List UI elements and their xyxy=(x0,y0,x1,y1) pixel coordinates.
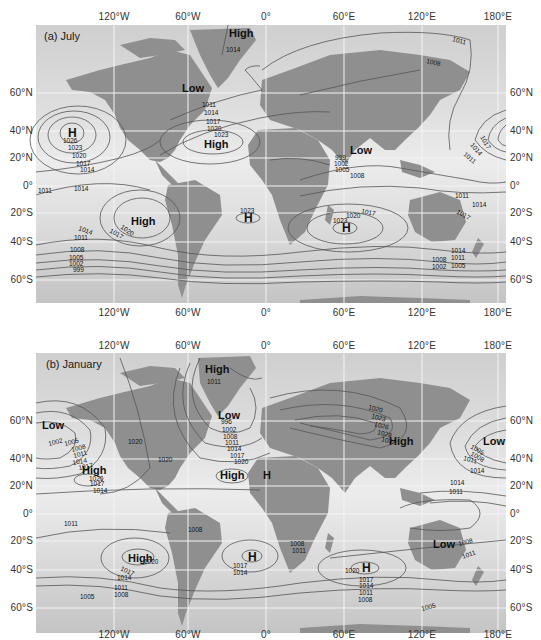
lon-label: 60°E xyxy=(333,340,356,351)
pressure-center-high: H xyxy=(362,561,371,575)
isobar-label: 1023 xyxy=(68,144,83,151)
isobar-label: 1026 xyxy=(63,137,78,144)
lat-label: 60°N xyxy=(10,87,33,98)
lat-label: 40°S xyxy=(510,564,533,575)
lat-label: 20°N xyxy=(10,480,33,491)
isobar-label: 1017 xyxy=(206,118,221,125)
panel-january-map: (b) January 120°W 60°W 0° 60°E 120°E 180… xyxy=(0,318,541,640)
lon-label: 120°W xyxy=(98,11,129,22)
isobar-label: 1014 xyxy=(117,574,132,581)
pressure-center-low: Low xyxy=(483,435,505,447)
isobar-label: 1020 xyxy=(234,458,249,465)
lat-label: 0° xyxy=(510,180,520,191)
lon-label: 120°E xyxy=(408,340,436,351)
isobar-label: 1008 xyxy=(290,540,305,547)
isobar-label: 1008 xyxy=(358,596,373,603)
isobar-label: 1008 xyxy=(432,256,447,263)
isobar-label: 1020 xyxy=(158,456,173,463)
isobar-label: 1014 xyxy=(233,569,248,576)
lat-label: 20°S xyxy=(10,535,33,546)
isobar-label: 1011 xyxy=(451,254,465,261)
lat-label: 20°S xyxy=(510,207,533,218)
lat-label: 40°N xyxy=(10,453,33,464)
january-labels: (b) January 120°W 60°W 0° 60°E 120°E 180… xyxy=(0,318,541,640)
isobar-label: 1014 xyxy=(359,582,374,589)
isobar-label: 1020 xyxy=(144,558,159,565)
isobar-label: 1014 xyxy=(451,247,466,254)
lat-label: 20°S xyxy=(510,535,533,546)
isobar-labels: 1011 1002 1005 1008 1011 1014 1017 1020 … xyxy=(47,378,485,612)
lat-label: 20°N xyxy=(10,152,33,163)
isobar-label: 1011 xyxy=(461,548,477,559)
panel-title: (b) January xyxy=(46,358,102,370)
pressure-center-high: H xyxy=(248,550,257,564)
isobar-label: 1011 xyxy=(207,378,221,385)
july-labels: (a) July 120°W 60°W 0° 60°E 120°E 180°E … xyxy=(0,0,541,318)
pressure-center-low: Low xyxy=(433,538,455,550)
isobar-label: 1008 xyxy=(70,246,85,253)
isobar-label: 1011 xyxy=(64,520,78,527)
lat-label: 40°S xyxy=(10,236,33,247)
lon-label: 120°E xyxy=(408,629,436,640)
lon-label: 60°E xyxy=(333,11,356,22)
isobar-label: 1011 xyxy=(202,101,216,108)
isobar-label: 1020 xyxy=(72,152,87,159)
isobar-label: 1017 xyxy=(361,207,377,217)
lon-label: 120°W xyxy=(98,307,129,318)
isobar-label: 1005 xyxy=(451,262,466,269)
lon-label: 180°E xyxy=(484,629,512,640)
lat-label: 0° xyxy=(23,180,33,191)
lon-label: 60°W xyxy=(175,307,201,318)
isobar-label: 1014 xyxy=(450,479,465,486)
lon-label: 0° xyxy=(261,307,271,318)
isobar-label: 1014 xyxy=(93,487,108,494)
latitude-labels-left: 60°N 40°N 20°N 0° 20°S 40°S 60°S xyxy=(10,87,33,285)
isobar-label: 1011 xyxy=(38,187,52,194)
pressure-center-high: High xyxy=(131,215,156,227)
isobar-label: 1005 xyxy=(80,593,95,600)
isobar-label: 1014 xyxy=(470,467,485,474)
isobar-label: 1002 xyxy=(222,426,237,433)
lat-label: 40°S xyxy=(510,236,533,247)
isobar-label: 1005 xyxy=(420,601,436,612)
lat-label: 60°S xyxy=(10,602,33,613)
isobar-label: 1005 xyxy=(335,166,350,173)
lat-label: 20°S xyxy=(10,207,33,218)
isobar-label: 1011 xyxy=(292,547,306,554)
isobar-label: 1023 xyxy=(240,207,255,214)
lon-label: 120°E xyxy=(408,307,436,318)
lat-label: 60°N xyxy=(510,87,533,98)
isobar-label: 1011 xyxy=(74,234,88,241)
isobar-label: 996 xyxy=(221,418,232,425)
lat-label: 0° xyxy=(510,508,520,519)
lat-label: 60°S xyxy=(510,274,533,285)
lat-label: 60°N xyxy=(10,415,33,426)
pressure-center-high: High xyxy=(205,363,230,375)
lon-label: 60°E xyxy=(333,629,356,640)
isobar-label: 1011 xyxy=(455,192,469,199)
pressure-center-high: High xyxy=(204,138,229,150)
isobar-label: 1008 xyxy=(457,536,473,547)
pressure-center-low: Low xyxy=(350,144,372,156)
isobar-label: 1023 xyxy=(333,217,348,224)
isobar-label: 1020 xyxy=(128,438,143,445)
isobar-label: 1008 xyxy=(114,591,129,598)
lon-label: 120°W xyxy=(98,340,129,351)
isobar-label: 1014 xyxy=(74,185,89,192)
isobar-label: 1008 xyxy=(350,172,365,179)
isobar-label: 1002 xyxy=(47,436,63,447)
lat-label: 60°S xyxy=(10,274,33,285)
panel-july-map: (a) July 120°W 60°W 0° 60°E 120°E 180°E … xyxy=(0,0,541,318)
lat-label: 20°N xyxy=(510,480,533,491)
pressure-center-high: High xyxy=(220,469,245,481)
lon-label: 180°E xyxy=(484,307,512,318)
isobar-label: 1011 xyxy=(359,589,373,596)
longitude-labels-top: 120°W 60°W 0° 60°E 120°E 180°E xyxy=(98,11,512,22)
lat-label: 0° xyxy=(23,508,33,519)
latitude-labels-right: 60°N 40°N 20°N 0° 20°S 40°S 60°S xyxy=(510,87,533,285)
longitude-labels-top: 120°W 60°W 0° 60°E 120°E 180°E xyxy=(98,340,512,351)
isobar-label: 1020 xyxy=(346,212,361,219)
isobar-label: 1014 xyxy=(226,46,241,53)
panel-title: (a) July xyxy=(44,30,81,42)
latitude-labels-left: 60°N 40°N 20°N 0° 20°S 40°S 60°S xyxy=(10,415,33,613)
